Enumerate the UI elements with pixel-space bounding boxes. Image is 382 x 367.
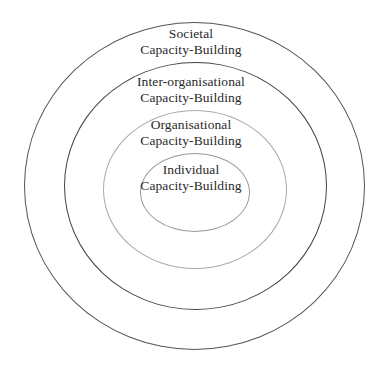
individual-label-line2: Capacity-Building [0,178,382,194]
inter-organisational-label-line1: Inter-organisational [0,74,382,90]
inter-organisational-label: Inter-organisational Capacity-Building [0,74,382,106]
inter-organisational-label-line2: Capacity-Building [0,90,382,106]
individual-label: Individual Capacity-Building [0,162,382,194]
societal-label: Societal Capacity-Building [0,26,382,58]
societal-label-line1: Societal [0,26,382,42]
organisational-label-line1: Organisational [0,117,382,133]
societal-label-line2: Capacity-Building [0,42,382,58]
organisational-label-line2: Capacity-Building [0,133,382,149]
individual-label-line1: Individual [0,162,382,178]
capacity-building-diagram: Societal Capacity-Building Inter-organis… [0,0,382,367]
organisational-label: Organisational Capacity-Building [0,117,382,149]
